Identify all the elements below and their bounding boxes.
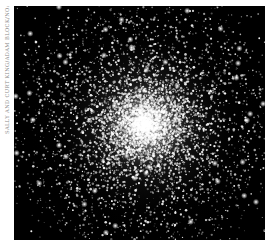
globular-cluster-photo	[14, 6, 265, 240]
starfield-canvas	[14, 6, 265, 240]
figure: SALLY AND CURT KING/ADAM BLOCK/NOAO/AURA…	[0, 0, 271, 243]
photo-credit: SALLY AND CURT KING/ADAM BLOCK/NOAO/AURA…	[2, 6, 12, 134]
photo-credit-text: SALLY AND CURT KING/ADAM BLOCK/NOAO/AURA…	[2, 6, 12, 134]
